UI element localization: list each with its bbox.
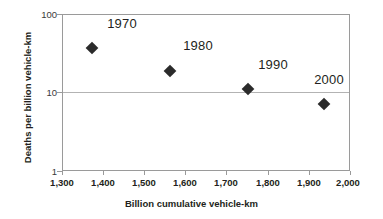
point-label-1970: 1970 bbox=[107, 16, 137, 31]
y-tick-label-10: 10 bbox=[46, 87, 57, 98]
y-tick-label-100: 100 bbox=[41, 9, 57, 20]
data-point-1970 bbox=[86, 42, 99, 55]
x-tick-label-1800: 1,800 bbox=[256, 177, 280, 188]
y-tick-mark-100 bbox=[57, 14, 62, 15]
x-tick-label-1700: 1,700 bbox=[214, 177, 238, 188]
x-tick-mark-1300 bbox=[62, 171, 63, 175]
x-tick-label-2000: 2,000 bbox=[336, 177, 360, 188]
y-tick-mark-10 bbox=[57, 92, 62, 93]
y-axis-title: Deaths per billion vehicle-km bbox=[22, 13, 33, 183]
scatter-chart: 1970 1980 1990 2000 100 10 1 Deaths per … bbox=[0, 0, 383, 219]
point-label-1990: 1990 bbox=[258, 57, 288, 72]
point-label-2000: 2000 bbox=[314, 72, 344, 87]
point-label-1980: 1980 bbox=[183, 38, 213, 53]
x-tick-label-1400: 1,400 bbox=[91, 177, 115, 188]
x-tick-label-1600: 1,600 bbox=[173, 177, 197, 188]
gridline-y-10 bbox=[63, 92, 349, 93]
x-tick-label-1900: 1,900 bbox=[297, 177, 321, 188]
x-tick-mark-1600 bbox=[185, 171, 186, 175]
x-tick-mark-1500 bbox=[144, 171, 145, 175]
data-point-1980 bbox=[164, 65, 177, 78]
x-tick-label-1500: 1,500 bbox=[132, 177, 156, 188]
y-tick-label-1: 1 bbox=[52, 166, 57, 177]
data-point-1990 bbox=[242, 83, 255, 96]
x-tick-mark-1700 bbox=[226, 171, 227, 175]
x-tick-label-1300: 1,300 bbox=[50, 177, 74, 188]
x-axis-title: Billion cumulative vehicle-km bbox=[0, 198, 383, 209]
x-tick-mark-1400 bbox=[103, 171, 104, 175]
x-tick-mark-1800 bbox=[268, 171, 269, 175]
x-tick-mark-1900 bbox=[309, 171, 310, 175]
data-point-2000 bbox=[318, 98, 331, 111]
x-tick-mark-2000 bbox=[350, 171, 351, 175]
